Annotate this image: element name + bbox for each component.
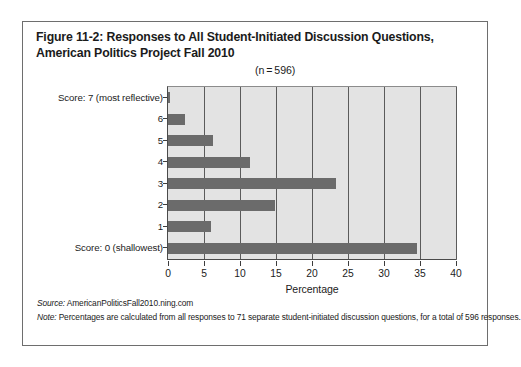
x-tick-mark-30 bbox=[384, 261, 385, 266]
bar-5 bbox=[168, 200, 275, 211]
bar-2 bbox=[168, 135, 213, 146]
y-tick-label-2: 5 bbox=[35, 134, 163, 145]
gridline-40 bbox=[456, 87, 457, 259]
bar-row bbox=[168, 87, 456, 109]
y-axis-labels: Score: 7 (most reflective)654321Score: 0… bbox=[36, 86, 163, 260]
source-value: AmericanPoliticsFall2010.ning.com bbox=[65, 298, 193, 308]
bar-row bbox=[168, 109, 456, 131]
bar-row bbox=[168, 152, 456, 174]
bar-row bbox=[168, 195, 456, 217]
figure-title-line-1: Figure 11-2: Responses to All Student-In… bbox=[36, 30, 466, 46]
x-tick-label-5: 5 bbox=[201, 268, 207, 279]
bar-row bbox=[168, 173, 456, 195]
figure-title: Figure 11-2: Responses to All Student-In… bbox=[36, 30, 466, 61]
y-tick-label-7: Score: 0 (shallowest) bbox=[35, 242, 163, 253]
x-tick-mark-10 bbox=[240, 261, 241, 266]
x-tick-mark-40 bbox=[456, 261, 457, 266]
x-tick-label-20: 20 bbox=[306, 268, 317, 279]
source-label: Source: bbox=[37, 298, 65, 308]
source-note: Source: AmericanPoliticsFall2010.ning.co… bbox=[37, 296, 477, 310]
y-tick-label-4: 3 bbox=[35, 177, 163, 188]
note-label: Note: bbox=[37, 312, 56, 322]
x-tick-label-25: 25 bbox=[342, 268, 353, 279]
explanatory-note: Note: Percentages are calculated from al… bbox=[37, 310, 477, 324]
x-tick-mark-0 bbox=[168, 261, 169, 266]
y-tick-label-6: 1 bbox=[35, 220, 163, 231]
bar-1 bbox=[168, 114, 185, 125]
y-tick-label-3: 4 bbox=[35, 156, 163, 167]
x-axis-title: Percentage bbox=[167, 283, 457, 295]
bar-7 bbox=[168, 243, 417, 254]
bar-6 bbox=[168, 221, 211, 232]
y-tick-label-0: Score: 7 (most reflective) bbox=[35, 91, 163, 102]
bar-4 bbox=[168, 178, 336, 189]
x-tick-mark-5 bbox=[204, 261, 205, 266]
bar-3 bbox=[168, 157, 250, 168]
bar-row bbox=[168, 216, 456, 238]
x-tick-label-10: 10 bbox=[234, 268, 245, 279]
sample-size-label: (n = 596) bbox=[255, 64, 295, 76]
y-tick-label-1: 6 bbox=[35, 113, 163, 124]
x-tick-mark-35 bbox=[420, 261, 421, 266]
x-tick-mark-20 bbox=[312, 261, 313, 266]
figure-card: Figure 11-2: Responses to All Student-In… bbox=[22, 21, 488, 346]
bar-row bbox=[168, 130, 456, 152]
figure-title-line-2: American Politics Project Fall 2010 bbox=[36, 46, 466, 62]
note-value: Percentages are calculated from all resp… bbox=[56, 312, 520, 322]
plot-area bbox=[167, 86, 457, 260]
figure-footnotes: Source: AmericanPoliticsFall2010.ning.co… bbox=[37, 296, 477, 324]
bar-0 bbox=[168, 92, 170, 103]
x-tick-label-40: 40 bbox=[450, 268, 461, 279]
x-tick-label-0: 0 bbox=[165, 268, 171, 279]
x-tick-mark-25 bbox=[348, 261, 349, 266]
x-tick-mark-15 bbox=[276, 261, 277, 266]
bar-row bbox=[168, 238, 456, 260]
x-tick-label-35: 35 bbox=[414, 268, 425, 279]
y-tick-label-5: 2 bbox=[35, 199, 163, 210]
chart-plot: Score: 7 (most reflective)654321Score: 0… bbox=[36, 84, 476, 289]
x-tick-label-15: 15 bbox=[270, 268, 281, 279]
x-tick-label-30: 30 bbox=[378, 268, 389, 279]
